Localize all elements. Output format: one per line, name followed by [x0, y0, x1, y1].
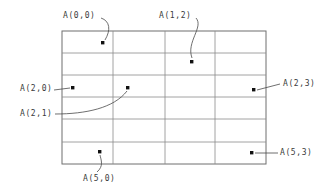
leader-line-2-3 [257, 84, 280, 90]
leader-line-0-0 [101, 18, 109, 40]
cell-label-0-0: A(0,0) [63, 12, 96, 20]
cell-label-2-0: A(2,0) [20, 85, 53, 93]
cell-label-2-1: A(2,1) [20, 110, 53, 118]
cell-dot-5-3 [250, 151, 253, 154]
grid-outer-border [62, 31, 266, 164]
cell-dot-1-2 [190, 60, 193, 63]
cell-label-5-0: A(5,0) [83, 175, 116, 183]
cell-dot-2-1 [126, 86, 129, 89]
array-index-diagram: A(0,0) A(1,2) A(2,0) A(2,1) A(2,3) A(5,0… [0, 0, 330, 191]
cell-label-5-3: A(5,3) [280, 149, 313, 157]
cell-dot-2-0 [71, 86, 74, 89]
grid-group [62, 31, 266, 164]
cell-dot-2-3 [252, 88, 255, 91]
cell-markers-group [71, 41, 255, 154]
cell-dot-0-0 [101, 41, 104, 44]
diagram-canvas [0, 0, 330, 191]
cell-dot-5-0 [98, 150, 101, 153]
cell-label-2-3: A(2,3) [283, 80, 316, 88]
leader-line-1-2 [191, 18, 198, 58]
leader-lines-group [54, 18, 280, 172]
cell-label-1-2: A(1,2) [159, 12, 192, 20]
leader-line-2-1 [55, 91, 127, 114]
